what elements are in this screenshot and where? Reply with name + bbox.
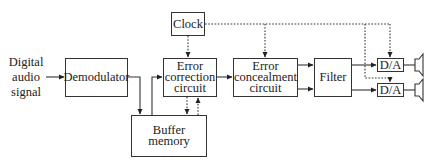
demod-to-buffer-arrow [128,77,140,114]
error-correction-label-3: circuit [174,83,206,94]
clock-label: Clock [173,19,203,30]
error-concealment-label-3: circuit [250,83,282,94]
filter-block: Filter [314,58,352,97]
da-bottom-label: D/A [380,85,402,96]
input-label-line-3: signal [4,85,48,100]
demodulator-label: Demodulator [64,72,130,83]
speaker-bottom-icon [415,79,423,101]
input-label: Digital audio signal [4,55,48,100]
clock-to-da-bottom-arrow [365,24,390,82]
clock-block: Clock [171,12,205,36]
input-label-line-1: Digital [4,55,48,70]
da-converter-top: D/A [377,58,404,72]
error-concealment-block: Error concealment circuit [233,58,298,97]
input-label-line-2: audio [4,70,48,85]
speaker-top-icon [415,54,423,76]
buffer-memory-block: Buffer memory [131,115,207,157]
demodulator-block: Demodulator [65,58,128,97]
error-correction-block: Error correction circuit [163,58,217,97]
filter-label: Filter [319,72,346,83]
buffer-to-correction-arrow [152,77,162,115]
buffer-memory-label: Buffer memory [132,125,206,147]
da-converter-bottom: D/A [377,83,404,97]
da-top-label: D/A [380,60,402,71]
